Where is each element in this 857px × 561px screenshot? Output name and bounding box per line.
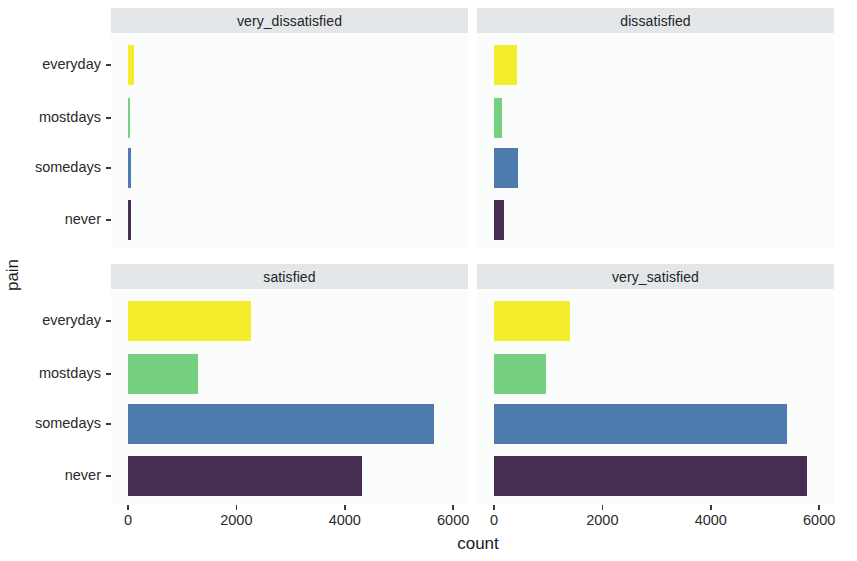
facet-strip-label: very_satisfied [612, 269, 699, 285]
x-tick-mark [818, 505, 820, 510]
x-tick-label: 2000 [586, 512, 618, 528]
x-tick-label: 4000 [329, 512, 361, 528]
x-tick-label: 6000 [803, 512, 835, 528]
bar [494, 404, 787, 444]
facet-panel: very_dissatisfied [111, 8, 468, 248]
facet-strip-label: dissatisfied [620, 13, 690, 29]
x-tick-mark [493, 505, 495, 510]
facet-strip-label: satisfied [263, 269, 315, 285]
facet-panel: dissatisfied [477, 8, 834, 248]
y-tick-mark [106, 117, 111, 119]
facet-strip: satisfied [111, 264, 468, 289]
x-axis-title: count [408, 534, 548, 554]
y-tick-label: somedays [0, 415, 101, 431]
x-tick-label: 0 [490, 512, 498, 528]
bar [128, 404, 434, 444]
y-tick-mark [106, 373, 111, 375]
x-tick-mark [236, 505, 238, 510]
bar [128, 200, 131, 240]
bar [128, 148, 131, 188]
bar [494, 98, 502, 138]
plot-area [111, 289, 468, 504]
plot-area [477, 33, 834, 248]
bar [494, 45, 517, 85]
bar [128, 45, 134, 85]
bar [128, 98, 130, 138]
y-axis-title: pain [3, 240, 23, 310]
y-tick-label: mostdays [0, 365, 101, 381]
facet-bar-chart: pain count very_dissatisfieddissatisfied… [0, 0, 857, 561]
bar [494, 456, 807, 496]
y-tick-label: never [0, 467, 101, 483]
x-tick-mark [344, 505, 346, 510]
plot-area [111, 33, 468, 248]
y-tick-mark [106, 320, 111, 322]
y-tick-label: somedays [0, 159, 101, 175]
facet-strip: very_satisfied [477, 264, 834, 289]
x-tick-mark [710, 505, 712, 510]
y-tick-mark [106, 167, 111, 169]
facet-strip: very_dissatisfied [111, 8, 468, 33]
y-tick-label: everyday [0, 56, 101, 72]
y-tick-mark [106, 219, 111, 221]
bar [494, 354, 546, 394]
x-tick-mark [602, 505, 604, 510]
x-tick-mark [127, 505, 129, 510]
x-tick-label: 2000 [220, 512, 252, 528]
bar [128, 354, 198, 394]
x-tick-mark [452, 505, 454, 510]
bar [128, 456, 362, 496]
y-tick-mark [106, 475, 111, 477]
y-tick-label: everyday [0, 312, 101, 328]
facet-strip-label: very_dissatisfied [237, 13, 342, 29]
y-tick-mark [106, 423, 111, 425]
bar [128, 301, 251, 341]
facet-panel: satisfied [111, 264, 468, 504]
y-tick-label: never [0, 211, 101, 227]
y-tick-label: mostdays [0, 109, 101, 125]
bar [494, 301, 570, 341]
x-tick-label: 0 [124, 512, 132, 528]
x-tick-label: 6000 [437, 512, 469, 528]
bar [494, 200, 504, 240]
facet-panel: very_satisfied [477, 264, 834, 504]
y-tick-mark [106, 64, 111, 66]
facet-strip: dissatisfied [477, 8, 834, 33]
bar [494, 148, 518, 188]
x-tick-label: 4000 [695, 512, 727, 528]
plot-area [477, 289, 834, 504]
